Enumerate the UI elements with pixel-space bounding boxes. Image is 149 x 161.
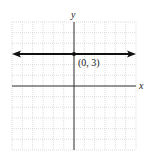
point-label: (0, 3)	[78, 57, 100, 69]
x-axis-label: x	[138, 80, 144, 91]
point-marker	[72, 52, 76, 56]
y-axis-label: y	[70, 9, 76, 20]
coordinate-plane: (0, 3) x y	[0, 0, 149, 161]
